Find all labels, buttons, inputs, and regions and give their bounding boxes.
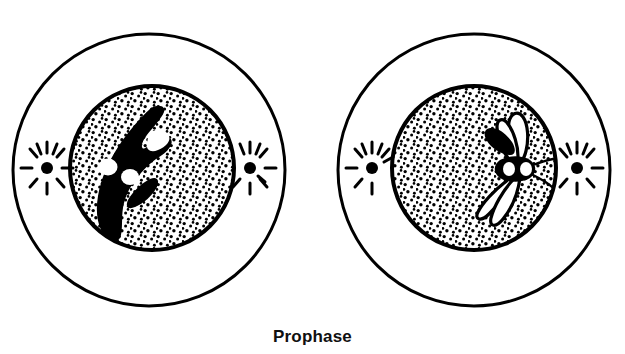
centriole-dot-icon <box>244 162 256 174</box>
left-cell-panel <box>13 34 285 306</box>
left-centromere-2 <box>121 169 139 185</box>
mitosis-prophase-figure: Prophase <box>0 0 625 354</box>
centriole-dot-icon <box>41 162 53 174</box>
left-cell-aster-left <box>21 142 73 194</box>
left-nucleus <box>70 86 234 250</box>
right-cell-panel <box>338 34 610 306</box>
right-nucleus <box>392 86 556 250</box>
right-centromere-1 <box>503 162 515 176</box>
left-centromere-1 <box>99 159 118 176</box>
prophase-diagram-svg <box>0 0 625 354</box>
centriole-dot-icon <box>571 162 583 174</box>
centriole-dot-icon <box>366 162 378 174</box>
figure-caption: Prophase <box>0 326 625 348</box>
right-centromere-2 <box>520 162 532 176</box>
